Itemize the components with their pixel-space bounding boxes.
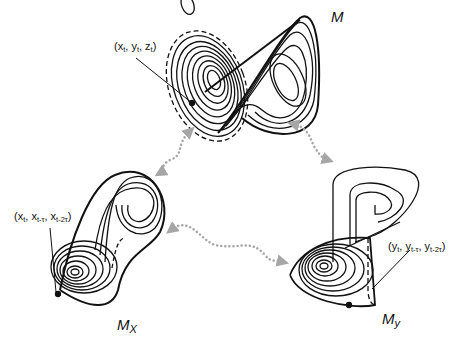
attractor-my [290,167,419,307]
point-label-my: (yt, yt-τ, yt-2τ) [388,240,445,254]
attractor-m [136,0,319,153]
arrow-m-mx [160,131,190,173]
attractor-m-left-wing [152,0,262,153]
point-label-mx: (xt, xt-τ, xt-2τ) [14,210,71,224]
point-label-m: (xt, yt, zt) [114,40,156,54]
attractor-mx-upper-loop [60,172,164,305]
arrow-mx-my [171,225,283,262]
manifold-label-mx: MX [117,316,137,335]
attractor-mx [50,172,164,305]
manifold-label-my: My [382,310,400,329]
arrow-m-my [293,124,328,160]
manifold-label-m: M [331,8,344,27]
attractor-my-point [347,303,352,308]
attractor-mx-point [56,292,61,297]
arrows [160,124,328,262]
diagram-canvas [0,0,468,346]
attractor-my-pointer [372,250,410,289]
attractor-m-right-wing [218,16,319,134]
